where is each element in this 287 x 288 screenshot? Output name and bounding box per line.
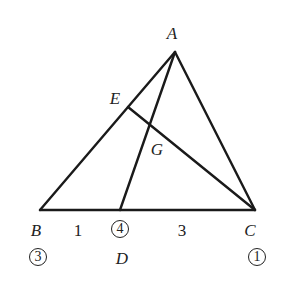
segment-ad <box>120 52 175 210</box>
diagram-lines <box>0 0 287 288</box>
triangle-diagram: A E G B C D 1 3 3 4 1 <box>0 0 287 288</box>
segment-ac <box>175 52 255 210</box>
point-label-a: A <box>167 25 177 42</box>
segment-label-bd: 1 <box>74 222 83 239</box>
point-label-g: G <box>151 141 163 158</box>
mass-label-c: 1 <box>248 248 266 266</box>
point-label-c: C <box>244 222 255 239</box>
point-label-b: B <box>31 222 41 239</box>
segment-label-dc: 3 <box>178 222 187 239</box>
segment-ec <box>128 107 255 210</box>
mass-label-d: 4 <box>111 220 129 238</box>
point-label-e: E <box>110 90 120 107</box>
segment-ab <box>40 52 175 210</box>
mass-label-b: 3 <box>29 248 47 266</box>
point-label-d: D <box>116 250 128 267</box>
